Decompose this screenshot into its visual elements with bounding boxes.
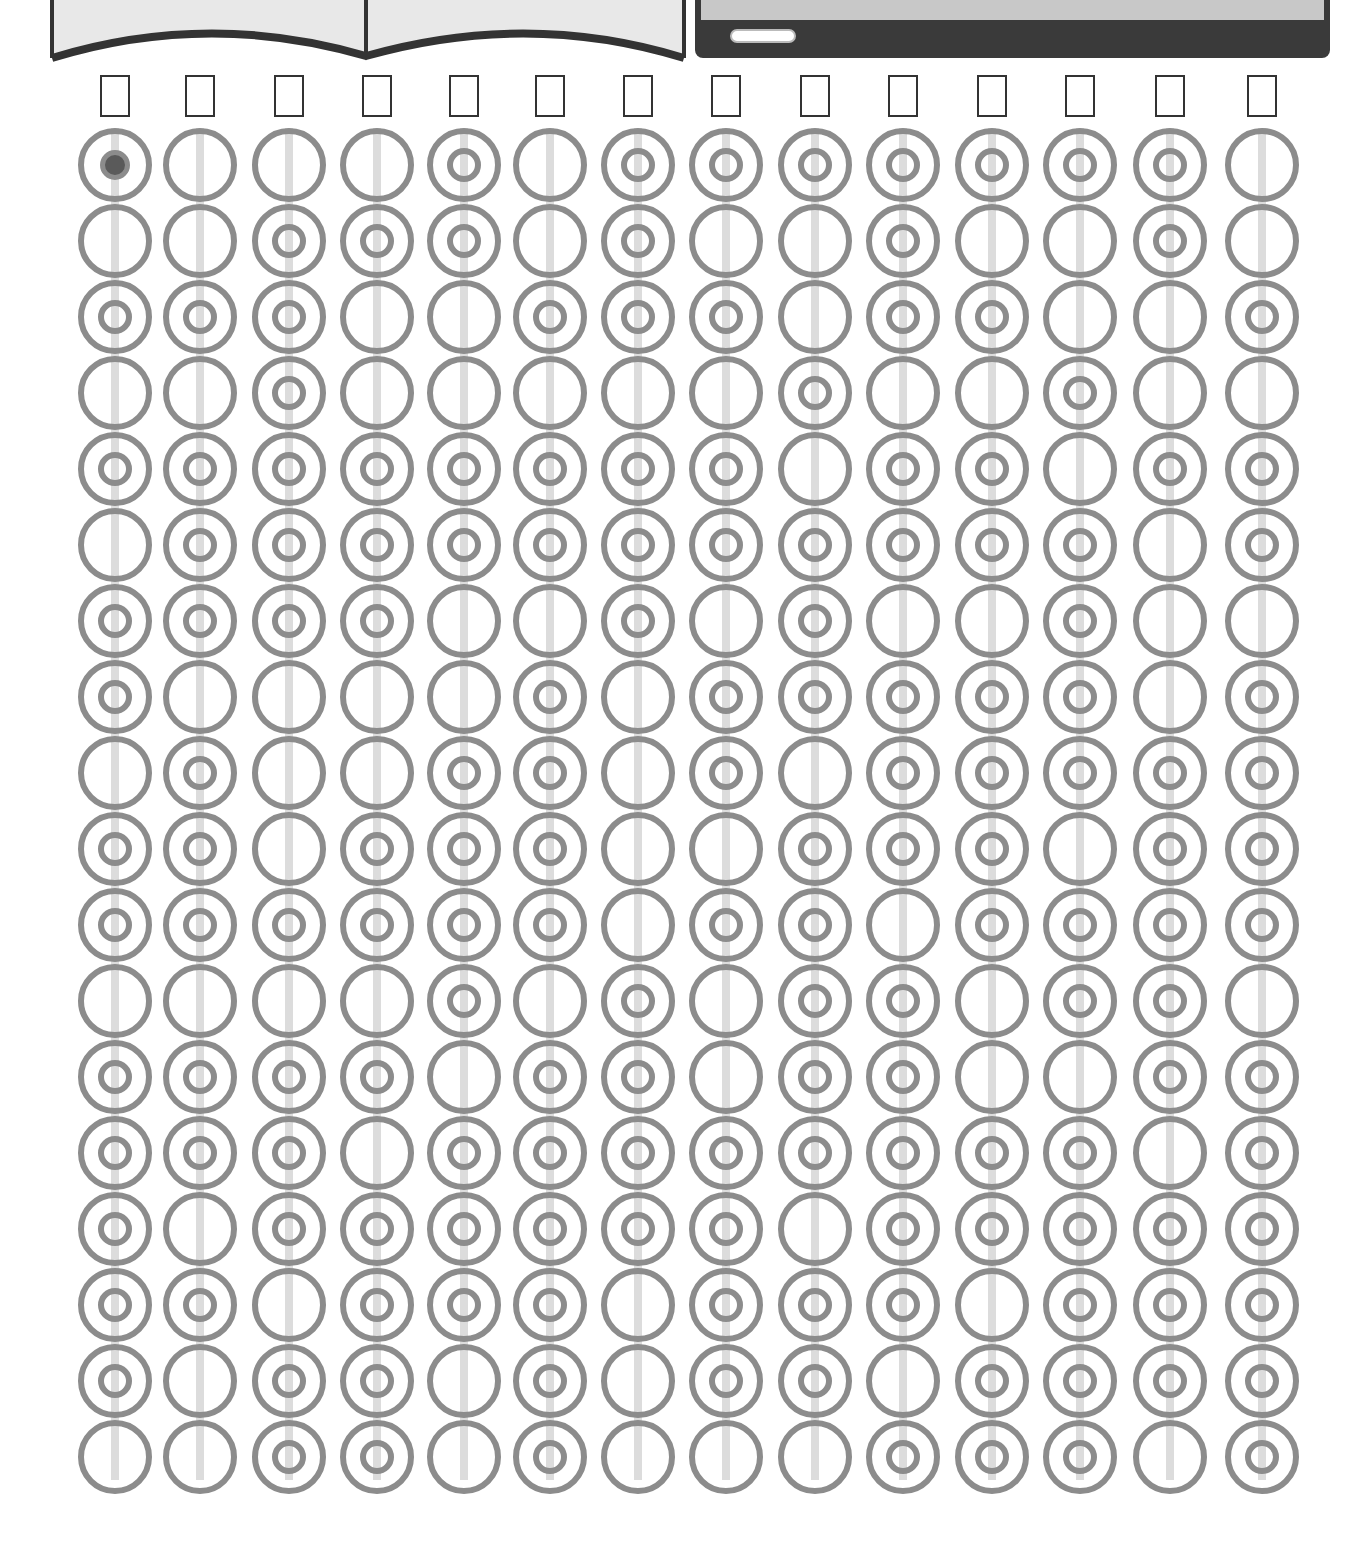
bead-target[interactable] [866, 660, 940, 734]
bead-target[interactable] [163, 736, 237, 810]
bead-target[interactable] [601, 128, 675, 202]
bead-empty[interactable] [866, 356, 940, 430]
bead-target[interactable] [252, 1420, 326, 1494]
bead-empty[interactable] [1133, 356, 1207, 430]
bead-target[interactable] [252, 1116, 326, 1190]
bead-empty[interactable] [163, 356, 237, 430]
bead-target[interactable] [340, 812, 414, 886]
bead-empty[interactable] [778, 204, 852, 278]
bead-empty[interactable] [252, 812, 326, 886]
answer-box[interactable] [977, 75, 1007, 117]
bead-empty[interactable] [1133, 660, 1207, 734]
bead-target[interactable] [601, 280, 675, 354]
bead-target[interactable] [689, 432, 763, 506]
bead-empty[interactable] [340, 1116, 414, 1190]
bead-empty[interactable] [340, 964, 414, 1038]
bead-target[interactable] [340, 1344, 414, 1418]
bead-empty[interactable] [689, 812, 763, 886]
bead-empty[interactable] [513, 964, 587, 1038]
bead-target[interactable] [866, 1040, 940, 1114]
bead-empty[interactable] [689, 964, 763, 1038]
bead-target[interactable] [513, 888, 587, 962]
bead-target[interactable] [601, 204, 675, 278]
bead-target[interactable] [513, 1420, 587, 1494]
bead-empty[interactable] [513, 128, 587, 202]
bead-target[interactable] [1225, 1116, 1299, 1190]
bead-target[interactable] [163, 1268, 237, 1342]
bead-empty[interactable] [163, 204, 237, 278]
bead-empty[interactable] [78, 356, 152, 430]
bead-target[interactable] [1133, 1344, 1207, 1418]
bead-target[interactable] [778, 1268, 852, 1342]
bead-target[interactable] [78, 280, 152, 354]
answer-box[interactable] [100, 75, 130, 117]
answer-box[interactable] [535, 75, 565, 117]
bead-target[interactable] [778, 584, 852, 658]
bead-target[interactable] [78, 660, 152, 734]
answer-box[interactable] [1065, 75, 1095, 117]
bead-target[interactable] [1133, 736, 1207, 810]
bead-empty[interactable] [601, 812, 675, 886]
bead-target[interactable] [601, 964, 675, 1038]
bead-target[interactable] [1043, 584, 1117, 658]
bead-empty[interactable] [78, 204, 152, 278]
bead-empty[interactable] [955, 356, 1029, 430]
bead-empty[interactable] [340, 736, 414, 810]
bead-target[interactable] [340, 888, 414, 962]
answer-box[interactable] [711, 75, 741, 117]
bead-target[interactable] [340, 584, 414, 658]
bead-target[interactable] [252, 584, 326, 658]
bead-empty[interactable] [1133, 584, 1207, 658]
bead-empty[interactable] [1043, 204, 1117, 278]
bead-empty[interactable] [340, 128, 414, 202]
bead-empty[interactable] [866, 584, 940, 658]
bead-empty[interactable] [163, 964, 237, 1038]
bead-target[interactable] [689, 1192, 763, 1266]
bead-target[interactable] [427, 1268, 501, 1342]
bead-target[interactable] [955, 1116, 1029, 1190]
bead-target[interactable] [689, 736, 763, 810]
bead-target[interactable] [427, 508, 501, 582]
bead-empty[interactable] [163, 1420, 237, 1494]
bead-target[interactable] [78, 1116, 152, 1190]
bead-target[interactable] [866, 1116, 940, 1190]
bead-target[interactable] [866, 1420, 940, 1494]
bead-empty[interactable] [1225, 204, 1299, 278]
bead-empty[interactable] [601, 736, 675, 810]
bead-empty[interactable] [689, 204, 763, 278]
bead-target[interactable] [689, 888, 763, 962]
bead-target[interactable] [1043, 1192, 1117, 1266]
bead-empty[interactable] [427, 1420, 501, 1494]
bead-target[interactable] [778, 1040, 852, 1114]
bead-empty[interactable] [1225, 964, 1299, 1038]
bead-target[interactable] [955, 1192, 1029, 1266]
bead-empty[interactable] [252, 128, 326, 202]
bead-target[interactable] [513, 812, 587, 886]
bead-target[interactable] [1043, 508, 1117, 582]
bead-target[interactable] [689, 508, 763, 582]
bead-target[interactable] [778, 888, 852, 962]
bead-target[interactable] [1133, 888, 1207, 962]
bead-empty[interactable] [955, 964, 1029, 1038]
bead-target[interactable] [1043, 1420, 1117, 1494]
bead-empty[interactable] [1043, 432, 1117, 506]
bead-empty[interactable] [1225, 128, 1299, 202]
bead-target[interactable] [252, 280, 326, 354]
bead-empty[interactable] [163, 1192, 237, 1266]
bead-empty[interactable] [427, 1344, 501, 1418]
bead-target[interactable] [866, 964, 940, 1038]
bead-target[interactable] [1133, 432, 1207, 506]
bead-target[interactable] [340, 204, 414, 278]
bead-empty[interactable] [601, 1420, 675, 1494]
bead-target[interactable] [1133, 204, 1207, 278]
bead-target[interactable] [340, 432, 414, 506]
bead-target[interactable] [340, 1420, 414, 1494]
bead-target[interactable] [866, 432, 940, 506]
bead-target[interactable] [1043, 660, 1117, 734]
bead-empty[interactable] [1043, 280, 1117, 354]
bead-empty[interactable] [778, 736, 852, 810]
bead-empty[interactable] [513, 356, 587, 430]
bead-target[interactable] [1225, 508, 1299, 582]
bead-target[interactable] [1043, 1344, 1117, 1418]
bead-empty[interactable] [513, 204, 587, 278]
